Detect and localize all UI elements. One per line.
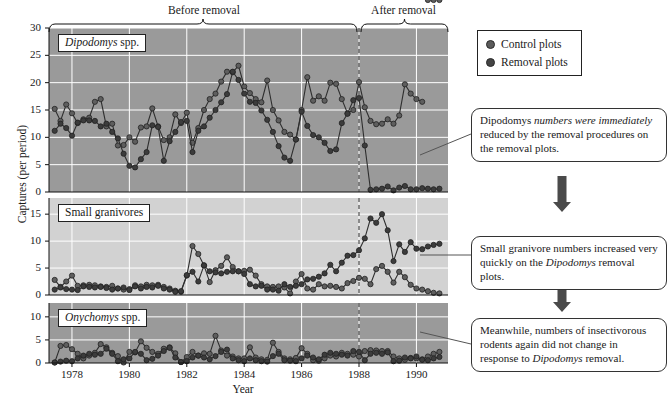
data-point xyxy=(316,274,321,279)
data-point xyxy=(121,285,126,290)
data-point xyxy=(184,110,189,115)
data-point xyxy=(305,75,310,80)
data-point xyxy=(184,273,189,278)
data-point xyxy=(351,253,356,258)
data-point xyxy=(173,112,178,117)
data-point xyxy=(161,158,166,163)
flow-arrow-down-1 xyxy=(553,176,571,212)
data-point xyxy=(150,349,155,354)
data-point xyxy=(339,97,344,102)
data-point xyxy=(328,350,333,355)
data-point xyxy=(110,287,115,292)
data-point xyxy=(75,120,80,125)
data-point xyxy=(385,269,390,274)
data-point xyxy=(201,263,206,268)
data-point xyxy=(282,282,287,287)
panel-label-2: Onychomys spp. xyxy=(58,309,147,327)
data-point xyxy=(150,285,155,290)
data-point xyxy=(230,356,235,361)
data-point xyxy=(351,348,356,353)
data-point xyxy=(207,269,212,274)
data-point xyxy=(247,267,252,272)
figure-root: 051015202530Dipodomys spp.051015Small gr… xyxy=(0,0,671,410)
data-point xyxy=(328,80,333,85)
panel-label-0: Dipodomys spp. xyxy=(58,34,146,52)
data-point xyxy=(219,79,224,84)
data-point xyxy=(144,358,149,363)
legend-item-0: Control plots xyxy=(486,38,561,50)
data-point xyxy=(305,123,310,128)
data-point xyxy=(156,353,161,358)
data-point xyxy=(356,95,361,100)
data-point xyxy=(425,186,430,191)
data-point xyxy=(311,276,316,281)
data-point xyxy=(339,352,344,357)
data-point xyxy=(64,279,69,284)
data-point xyxy=(420,186,425,191)
data-point xyxy=(213,354,218,359)
data-point xyxy=(178,289,183,294)
y-tick-label: 0 xyxy=(19,288,41,300)
y-tick-label: 5 xyxy=(19,261,41,273)
y-axis-title: Captures (per period) xyxy=(16,114,28,234)
data-point xyxy=(437,354,442,359)
data-point xyxy=(104,121,109,126)
data-point xyxy=(259,283,264,288)
callout-line: Small granivore numbers increased very xyxy=(480,242,659,256)
data-point xyxy=(408,187,413,192)
x-tick-label: 1990 xyxy=(396,368,436,380)
data-point xyxy=(92,285,97,290)
data-point xyxy=(334,147,339,152)
data-point xyxy=(190,349,195,354)
x-tick-label: 1980 xyxy=(109,368,149,380)
data-point xyxy=(299,356,304,361)
data-point xyxy=(305,277,310,282)
data-point xyxy=(52,287,57,292)
data-point xyxy=(104,285,109,290)
data-point xyxy=(219,271,224,276)
data-point xyxy=(368,282,373,287)
data-point xyxy=(121,151,126,156)
data-point xyxy=(385,117,390,122)
callout-text: Dipodomys xyxy=(480,114,531,126)
data-point xyxy=(345,281,350,286)
callout-dipodomys: Dipodomys numbers were immediatelyreduce… xyxy=(471,108,667,162)
data-point xyxy=(374,220,379,225)
data-point xyxy=(224,69,229,74)
data-point xyxy=(236,63,241,68)
data-point xyxy=(316,135,321,140)
data-point xyxy=(230,269,235,274)
data-point xyxy=(299,109,304,114)
data-point xyxy=(69,111,74,116)
data-point xyxy=(52,128,57,133)
data-point xyxy=(379,263,384,268)
callout-onychomys: Meanwhile, numbers of insectivorousroden… xyxy=(471,318,667,372)
data-point xyxy=(144,150,149,155)
data-point xyxy=(138,125,143,130)
data-point xyxy=(167,287,172,292)
data-point xyxy=(374,267,379,272)
callout-line: Meanwhile, numbers of insectivorous xyxy=(480,324,659,338)
data-point xyxy=(207,97,212,102)
data-point xyxy=(98,351,103,356)
data-point xyxy=(408,356,413,361)
data-point xyxy=(150,106,155,111)
data-point xyxy=(81,353,86,358)
data-point xyxy=(58,121,63,126)
x-tick-label: 1986 xyxy=(282,368,322,380)
callout-text: numbers were immediately xyxy=(531,114,652,126)
data-point xyxy=(316,94,321,99)
flow-arrow-down-2 xyxy=(553,286,571,312)
data-point xyxy=(213,107,218,112)
data-point xyxy=(127,349,132,354)
data-point xyxy=(311,355,316,360)
data-point xyxy=(391,280,396,285)
x-axis-title: Year xyxy=(233,383,254,395)
data-point xyxy=(385,184,390,189)
data-point xyxy=(374,122,379,127)
data-point xyxy=(270,287,275,292)
data-point xyxy=(368,216,373,221)
data-point xyxy=(385,228,390,233)
data-point xyxy=(276,288,281,293)
data-point xyxy=(201,124,206,129)
